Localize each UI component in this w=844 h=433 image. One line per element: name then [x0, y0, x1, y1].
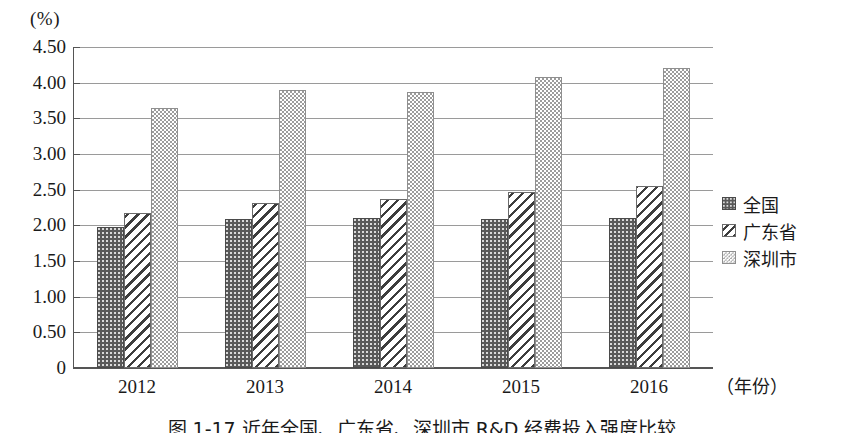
bar [508, 192, 535, 368]
y-axis-tick-label: 1.00 [33, 286, 66, 308]
bar [353, 218, 380, 368]
bar [252, 203, 279, 368]
legend-item: 深圳市 [722, 244, 840, 271]
figure-caption: 图 1-17 近年全国、广东省、深圳市 R&D 经费投入强度比较 [0, 414, 844, 433]
bar-group [73, 47, 201, 368]
x-axis-tick-label: 2013 [201, 372, 329, 402]
x-axis-title: （年份） [716, 372, 788, 402]
y-axis-tick-label: 4.00 [33, 72, 66, 94]
bar [636, 186, 663, 368]
bar [663, 68, 690, 368]
y-axis-tick-mark [73, 47, 80, 48]
chart-legend: 全国广东省深圳市 [722, 190, 840, 271]
y-axis-tick-label: 3.00 [33, 143, 66, 165]
y-axis-tick-label: 3.50 [33, 107, 66, 129]
y-axis-tick-label: 4.50 [33, 36, 66, 58]
y-axis-tick-mark [73, 297, 80, 298]
bar-group [329, 47, 457, 368]
bar [225, 219, 252, 368]
bar-group [585, 47, 713, 368]
x-axis-tick-label: 2014 [329, 372, 457, 402]
y-axis-tick-label: 0.50 [33, 321, 66, 343]
y-axis-tick-mark [73, 118, 80, 119]
y-axis-unit-label: (%) [30, 8, 60, 30]
bar [380, 199, 407, 368]
bar [407, 92, 434, 368]
bar [481, 219, 508, 368]
y-axis-tick-mark [73, 332, 80, 333]
y-axis-tick-mark [73, 154, 80, 155]
legend-label: 深圳市 [743, 245, 797, 271]
y-axis-tick-labels: 4.504.003.503.002.502.001.501.000.500 [0, 47, 66, 368]
legend-label: 全国 [743, 191, 779, 217]
bar [535, 77, 562, 368]
x-axis-tick-label: 2015 [457, 372, 585, 402]
bar [124, 213, 151, 368]
x-axis-tick-labels: 20122013201420152016 [73, 372, 713, 402]
legend-item: 全国 [722, 190, 840, 217]
y-axis-tick-mark [73, 83, 80, 84]
gridline [74, 368, 713, 369]
y-axis-tick-label: 0 [57, 357, 67, 379]
bar-group [457, 47, 585, 368]
y-axis-tick-label: 1.50 [33, 250, 66, 272]
chart-figure: (%) 4.504.003.503.002.502.001.501.000.50… [0, 0, 844, 433]
bar [609, 218, 636, 368]
legend-swatch-icon [722, 224, 736, 237]
legend-swatch-icon [722, 197, 736, 210]
y-axis-tick-mark [73, 261, 80, 262]
y-axis-tick-mark [73, 225, 80, 226]
y-axis-tick-mark [73, 368, 80, 369]
y-axis-tick-label: 2.00 [33, 214, 66, 236]
bar-group [201, 47, 329, 368]
bar [97, 227, 124, 368]
bar [279, 90, 306, 368]
legend-swatch-icon [722, 251, 736, 264]
y-axis-tick-mark [73, 190, 80, 191]
legend-label: 广东省 [743, 218, 797, 244]
x-axis-tick-label: 2012 [73, 372, 201, 402]
bar [151, 108, 178, 368]
legend-item: 广东省 [722, 217, 840, 244]
x-axis-tick-label: 2016 [585, 372, 713, 402]
y-axis-tick-label: 2.50 [33, 179, 66, 201]
bar-groups [73, 47, 713, 368]
